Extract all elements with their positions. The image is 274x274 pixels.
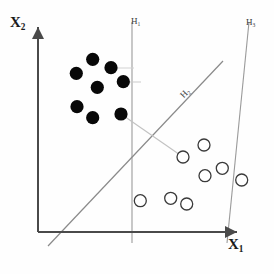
data-point-filled (114, 107, 127, 120)
data-point-hollow (216, 162, 228, 174)
plot-canvas (0, 0, 274, 274)
hyperplane-h3-line (227, 22, 249, 243)
y-axis-label-text: X (10, 14, 21, 30)
data-point-hollow (165, 192, 177, 204)
data-point-filled (70, 100, 83, 113)
x-axis-label-text: X (228, 236, 239, 252)
hyperplane-h2-line (48, 61, 223, 246)
data-point-filled (117, 75, 130, 88)
data-point-filled (91, 81, 104, 94)
svm-hyperplane-figure: X2 X1 H1 H2 H3 (0, 0, 274, 274)
data-point-hollow (177, 151, 189, 163)
data-point-hollow (198, 139, 210, 151)
scatter-group-filled (70, 53, 130, 125)
hyperplane-h3-label: H3 (246, 17, 255, 28)
data-point-hollow (199, 170, 211, 182)
x-axis-label: X1 (228, 236, 244, 254)
data-point-filled (104, 61, 117, 74)
data-point-hollow (236, 174, 248, 186)
hyperplane-h1-label-sub: 1 (138, 21, 141, 27)
data-point-filled (70, 67, 83, 80)
data-point-filled (86, 53, 99, 66)
x-axis-label-sub: 1 (239, 244, 244, 254)
y-axis-label-sub: 2 (21, 22, 26, 32)
data-point-filled (86, 111, 99, 124)
hyperplane-h1-label: H1 (131, 16, 140, 27)
data-point-hollow (134, 195, 146, 207)
margin-connector-line (121, 114, 183, 157)
y-axis-label: X2 (10, 14, 26, 32)
scatter-group-hollow (134, 139, 247, 210)
data-point-hollow (181, 198, 193, 210)
hyperplane-h3-label-sub: 3 (253, 22, 256, 28)
